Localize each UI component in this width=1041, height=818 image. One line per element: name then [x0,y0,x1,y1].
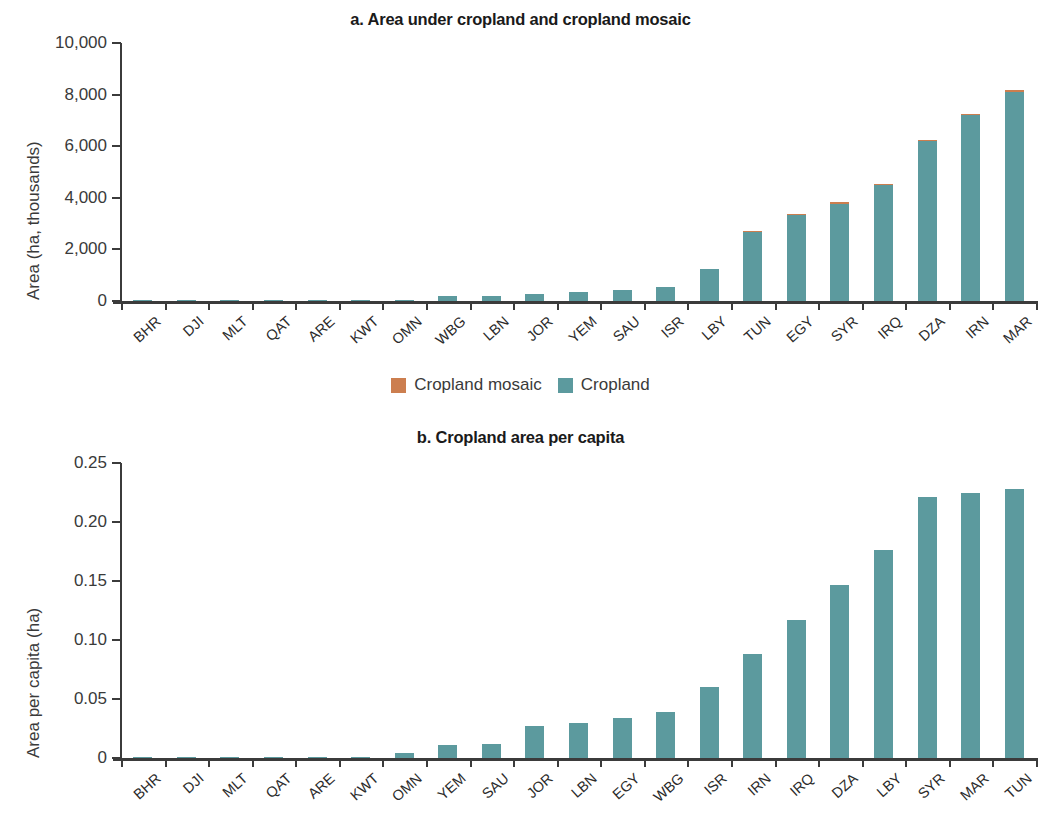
bar-tun[interactable] [1005,463,1024,758]
x-tick-label-qat: QAT [240,313,294,364]
bar-wbg[interactable] [656,463,675,758]
bar-jor[interactable] [525,463,544,758]
bar-irq[interactable] [787,463,806,758]
x-tick-mark [905,758,907,767]
bar-egy[interactable] [613,463,632,758]
bar-omn[interactable] [395,463,414,758]
bar-kwt[interactable] [351,463,370,758]
bar-segment-cropland [743,654,762,758]
x-tick-label-are: ARE [284,313,338,364]
y-tick-label: 2,000 [11,239,107,259]
bar-segment-cropland [308,757,327,758]
bar-irn[interactable] [743,463,762,758]
chart-b-title: b. Cropland area per capita [0,428,1041,447]
y-tick-mark [112,145,121,147]
bar-segment-cropland [918,141,937,301]
bar-segment-cropland [613,290,632,301]
x-tick-mark [949,758,951,767]
bar-are[interactable] [308,463,327,758]
legend-item-cropland-mosaic[interactable]: Cropland mosaic [391,375,542,395]
chart-a-title: a. Area under cropland and cropland mosa… [0,10,1041,29]
bar-segment-cropland [438,745,457,758]
x-tick-mark [252,758,254,767]
bar-irq[interactable] [874,43,893,301]
bar-qat[interactable] [264,463,283,758]
bar-segment-cropland [264,757,283,758]
bar-lbn[interactable] [482,43,501,301]
bar-dza[interactable] [830,463,849,758]
bar-segment-cropland [656,287,675,301]
y-tick-mark [112,197,121,199]
bar-mar[interactable] [961,463,980,758]
bar-segment-cropland [787,215,806,301]
bar-sau[interactable] [482,463,501,758]
bar-segment-cropland [308,300,327,301]
y-axis-line [120,43,122,302]
bar-yem[interactable] [569,43,588,301]
y-tick-label: 4,000 [11,188,107,208]
bar-omn[interactable] [395,43,414,301]
x-tick-mark [470,301,472,310]
y-tick-mark [112,300,121,302]
bar-segment-cropland-mosaic [918,140,937,141]
y-tick-label: 0.20 [29,512,107,532]
x-tick-mark [339,301,341,310]
x-tick-mark [513,758,515,767]
bar-mar[interactable] [1005,43,1024,301]
legend-item-cropland[interactable]: Cropland [558,375,650,395]
x-tick-label-mlt: MLT [197,313,251,364]
x-tick-label-dza: DZA [894,313,948,364]
x-tick-mark [208,301,210,310]
bar-syr[interactable] [918,463,937,758]
bar-isr[interactable] [700,463,719,758]
bar-bhr[interactable] [133,463,152,758]
bar-lby[interactable] [874,463,893,758]
bar-lby[interactable] [700,43,719,301]
bar-segment-cropland [177,300,196,301]
y-tick-label: 0.25 [29,453,107,473]
bar-segment-cropland [351,300,370,301]
bar-sau[interactable] [613,43,632,301]
x-tick-mark [557,301,559,310]
bar-tun[interactable] [743,43,762,301]
x-tick-label-sau: SAU [589,313,643,364]
y-tick-label: 6,000 [11,136,107,156]
y-tick-label: 8,000 [11,85,107,105]
bar-segment-cropland [177,757,196,758]
bar-dza[interactable] [918,43,937,301]
bar-syr[interactable] [830,43,849,301]
y-tick-mark [112,698,121,700]
bar-lbn[interactable] [569,463,588,758]
x-tick-label-kwt: KWT [328,313,382,364]
bar-segment-cropland [874,185,893,301]
bar-mlt[interactable] [220,463,239,758]
bar-dji[interactable] [177,463,196,758]
bar-irn[interactable] [961,43,980,301]
bar-isr[interactable] [656,43,675,301]
x-tick-mark [862,301,864,310]
bar-segment-cropland [482,744,501,758]
bar-yem[interactable] [438,463,457,758]
bar-egy[interactable] [787,43,806,301]
chart-a-y-axis-label: Area (ha, thousands) [24,141,44,300]
bar-mlt[interactable] [220,43,239,301]
x-tick-mark [121,301,123,310]
bar-wbg[interactable] [438,43,457,301]
bar-dji[interactable] [177,43,196,301]
x-tick-mark [731,758,733,767]
bar-segment-cropland [569,723,588,758]
bar-qat[interactable] [264,43,283,301]
bar-jor[interactable] [525,43,544,301]
bar-are[interactable] [308,43,327,301]
bar-bhr[interactable] [133,43,152,301]
x-tick-mark [775,301,777,310]
x-tick-mark [382,758,384,767]
x-tick-mark [382,301,384,310]
bar-kwt[interactable] [351,43,370,301]
bar-segment-cropland [395,300,414,301]
x-tick-label-dji: DJI [153,313,207,364]
legend-swatch-icon [558,378,573,393]
x-tick-mark [470,758,472,767]
bar-segment-cropland [700,269,719,301]
x-tick-label-yem: YEM [545,313,599,364]
